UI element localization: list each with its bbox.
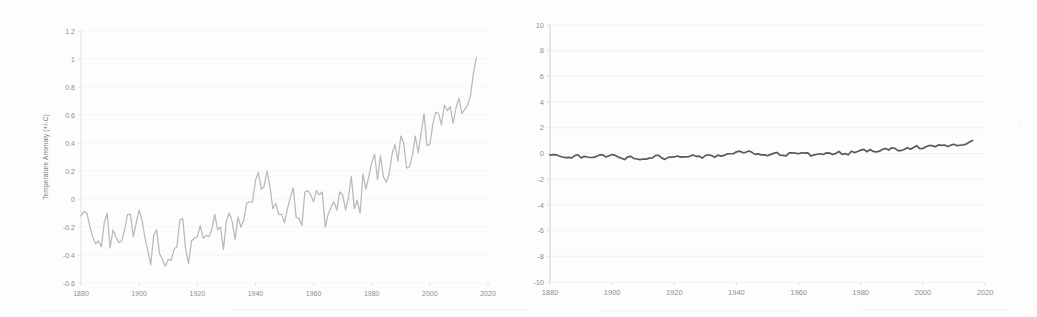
y-axis-tick-label: 0.8 (65, 84, 75, 91)
y-axis-tick-label: 1 (71, 56, 75, 63)
y-axis-tick-label: -2 (537, 175, 544, 184)
y-axis-tick-label: -0.4 (63, 252, 75, 259)
x-axis-tick-label: 2020 (977, 288, 994, 297)
scan-artifact (1018, 120, 1021, 123)
x-axis-tick-label: 2020 (480, 290, 496, 297)
x-axis-tick-label: 1980 (364, 290, 380, 297)
y-axis-tick-label: -6 (537, 226, 544, 235)
y-axis-tick-label: 0.2 (65, 168, 75, 175)
x-axis-tick-label: 1920 (666, 288, 683, 297)
y-axis-tick-label: 0 (540, 149, 544, 158)
y-axis-tick-label: 2 (540, 123, 544, 132)
scan-artifact (40, 310, 200, 312)
y-axis-tick-label: -0.2 (63, 224, 75, 231)
y-axis-tick-label: 8 (540, 46, 544, 55)
x-axis-tick-label: 1960 (790, 288, 807, 297)
y-axis-tick-label: 0.6 (65, 112, 75, 119)
scan-artifact (600, 310, 800, 312)
x-axis-tick-label: 1960 (306, 290, 322, 297)
y-axis-tick-label: 0.4 (65, 140, 75, 147)
x-axis-tick-label: 2000 (915, 288, 932, 297)
y-axis-tick-label: 0 (71, 196, 75, 203)
x-axis-tick-label: 1940 (728, 288, 745, 297)
data-series-line (550, 141, 973, 160)
x-axis-tick-label: 1980 (852, 288, 869, 297)
data-series-line (81, 58, 476, 267)
x-axis-tick-label: 2000 (422, 290, 438, 297)
x-axis-tick-label: 1880 (542, 288, 559, 297)
y-axis-tick-label: -10 (533, 278, 544, 287)
x-axis-tick-label: 1900 (131, 290, 147, 297)
right-chart-svg: 1086420-2-4-6-8-101880190019201940196019… (520, 0, 1037, 317)
y-axis-tick-label: -4 (537, 201, 544, 210)
chart-panel-right: 1086420-2-4-6-8-101880190019201940196019… (520, 0, 1037, 317)
y-axis-tick-label: -8 (537, 252, 544, 261)
y-axis-tick-label: 6 (540, 72, 544, 81)
x-axis-tick-label: 1920 (189, 290, 205, 297)
y-axis-title: Temperature Anomaly (+/-C) (42, 114, 50, 200)
dual-chart-figure: 1.210.80.60.40.20-0.2-0.4-0.618801900192… (0, 0, 1037, 317)
y-axis-tick-label: -0.6 (63, 280, 75, 287)
scan-artifact (860, 309, 1010, 311)
scan-artifact (230, 309, 530, 311)
y-axis-tick-label: 10 (536, 21, 544, 30)
y-axis-tick-label: 1.2 (65, 28, 75, 35)
y-axis-tick-label: 4 (540, 98, 544, 107)
left-chart-svg: 1.210.80.60.40.20-0.2-0.4-0.618801900192… (0, 0, 520, 317)
x-axis-tick-label: 1940 (248, 290, 264, 297)
x-axis-tick-label: 1900 (604, 288, 621, 297)
x-axis-tick-label: 1880 (73, 290, 89, 297)
chart-panel-left: 1.210.80.60.40.20-0.2-0.4-0.618801900192… (0, 0, 520, 317)
